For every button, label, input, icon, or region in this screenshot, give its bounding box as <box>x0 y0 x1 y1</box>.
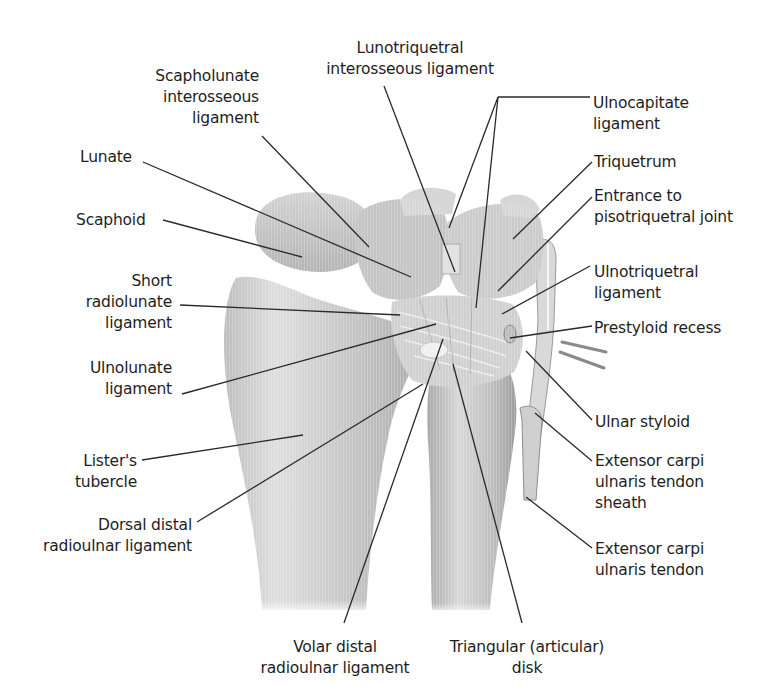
label-listers-tubercle: Lister'stubercle <box>60 451 137 493</box>
label-ulnar-styloid: Ulnar styloid <box>595 412 725 433</box>
label-line: tubercle <box>60 472 137 493</box>
wrist-anatomy-figure: Lunotriquetralinterosseous ligamentScaph… <box>0 0 777 699</box>
label-line: Lunotriquetral <box>305 38 515 59</box>
label-line: interosseous <box>125 87 259 108</box>
label-triquetrum: Triquetrum <box>594 152 714 173</box>
label-line: Ulnar styloid <box>595 412 725 433</box>
label-line: Lister's <box>60 451 137 472</box>
ligament-complex <box>391 296 523 387</box>
label-line: Entrance to <box>594 186 774 207</box>
label-line: Ulnocapitate <box>593 93 743 114</box>
label-ulnocapitate: Ulnocapitateligament <box>593 93 743 135</box>
label-line: radioulnar ligament <box>26 536 192 557</box>
label-line: ulnaris tendon <box>595 560 745 581</box>
label-line: radioulnar ligament <box>245 658 425 679</box>
label-entrance-pisotriquetral: Entrance topisotriquetral joint <box>594 186 774 228</box>
ulna-bone <box>425 351 520 615</box>
label-line: Prestyloid recess <box>594 318 764 339</box>
label-line: Triangular (articular) <box>432 637 622 658</box>
label-line: ligament <box>593 114 743 135</box>
leader-line-ecu-tendon-sheath <box>535 413 592 461</box>
label-line: Triquetrum <box>594 152 714 173</box>
label-dorsal-distal-radioulnar: Dorsal distalradioulnar ligament <box>26 515 192 557</box>
label-line: radiolunate <box>80 292 172 313</box>
leader-line-ecu-tendon <box>526 497 592 548</box>
label-ecu-tendon: Extensor carpiulnaris tendon <box>595 539 745 581</box>
label-line: Dorsal distal <box>26 515 192 536</box>
label-lunotriquetral: Lunotriquetralinterosseous ligament <box>305 38 515 80</box>
label-line: ligament <box>125 108 259 129</box>
label-line: Extensor carpi <box>595 539 745 560</box>
label-ulnotriquetral: Ulnotriquetralligament <box>594 262 744 304</box>
label-line: Extensor carpi <box>595 451 745 472</box>
label-line: sheath <box>595 493 745 514</box>
label-line: Volar distal <box>245 637 425 658</box>
label-lunate: Lunate <box>80 147 170 168</box>
label-line: Lunate <box>80 147 170 168</box>
label-line: interosseous ligament <box>305 59 515 80</box>
label-ecu-tendon-sheath: Extensor carpiulnaris tendonsheath <box>595 451 745 514</box>
label-ulnolunate: Ulnolunateligament <box>70 358 172 400</box>
label-line: ligament <box>70 379 172 400</box>
label-short-radiolunate: Shortradiolunateligament <box>80 271 172 334</box>
label-line: Short <box>80 271 172 292</box>
label-line: pisotriquetral joint <box>594 207 774 228</box>
label-volar-distal-radioulnar: Volar distalradioulnar ligament <box>245 637 425 679</box>
label-prestyloid-recess: Prestyloid recess <box>594 318 764 339</box>
label-line: Scapholunate <box>125 66 259 87</box>
label-line: Ulnotriquetral <box>594 262 744 283</box>
label-scapholunate: Scapholunateinterosseousligament <box>125 66 259 129</box>
label-line: ligament <box>594 283 744 304</box>
label-triangular-disk: Triangular (articular)disk <box>432 637 622 679</box>
label-line: ligament <box>80 313 172 334</box>
label-line: Ulnolunate <box>70 358 172 379</box>
label-scaphoid: Scaphoid <box>76 210 186 231</box>
carpal-bones <box>255 188 544 300</box>
label-line: ulnaris tendon <box>595 472 745 493</box>
label-line: Scaphoid <box>76 210 186 231</box>
label-line: disk <box>432 658 622 679</box>
